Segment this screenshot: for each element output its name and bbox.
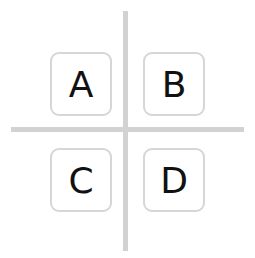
quadrant-label: B — [162, 64, 187, 105]
quadrant-label: A — [69, 64, 94, 105]
quadrant-label: D — [160, 160, 188, 201]
quadrant-box-d: D — [143, 148, 205, 212]
quadrant-label: C — [68, 160, 93, 201]
quadrant-box-a: A — [50, 52, 112, 116]
quadrant-box-c: C — [50, 148, 112, 212]
horizontal-divider — [11, 127, 244, 132]
quadrant-box-b: B — [143, 52, 205, 116]
